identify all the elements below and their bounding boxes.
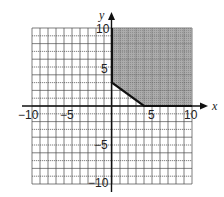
y-axis-arrow-icon — [108, 12, 115, 20]
y-tick-10: 10 — [96, 22, 110, 36]
x-tick-10: 10 — [184, 108, 198, 122]
x-tick-5: 5 — [148, 108, 155, 122]
y-tick-neg5: −5 — [94, 138, 108, 152]
y-tick-5: 5 — [101, 62, 108, 76]
x-tick-neg10: −10 — [18, 108, 39, 122]
x-tick-neg5: −5 — [60, 108, 74, 122]
y-tick-neg10: −10 — [88, 176, 109, 190]
coordinate-plane: x y −10 −5 5 10 10 5 −5 −10 — [0, 0, 224, 197]
x-axis-arrow-icon — [200, 103, 208, 110]
x-axis-label: x — [211, 99, 218, 113]
y-axis-label: y — [98, 8, 105, 22]
